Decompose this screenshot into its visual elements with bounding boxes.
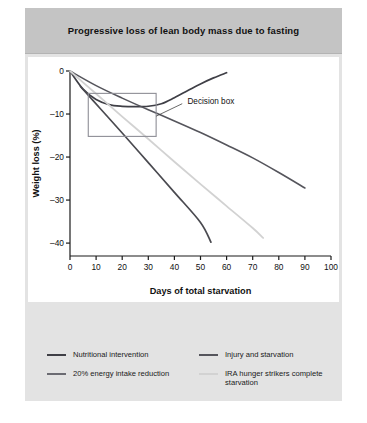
x-tick-label: 100	[324, 262, 338, 272]
y-tick-label: 0	[59, 66, 64, 76]
x-axis-label: Days of total starvation	[150, 286, 252, 296]
legend-label: IRA hunger strikers complete starvation	[225, 369, 339, 388]
y-tick-label: –20	[50, 152, 64, 162]
legend-label: Nutritional intervention	[73, 350, 187, 360]
x-tick-label: 80	[274, 262, 284, 272]
legend-column-right: Injury and starvation IRA hunger striker…	[199, 350, 339, 397]
legend-swatch-icon	[47, 354, 66, 356]
legend-swatch-icon	[199, 373, 218, 375]
figure-panel: Progressive loss of lean body mass due t…	[25, 8, 342, 401]
x-tick-label: 0	[68, 262, 73, 272]
chart-legend: Nutritional intervention 20% energy inta…	[47, 350, 332, 398]
y-tick-label: –40	[50, 238, 64, 248]
x-tick-label: 50	[196, 262, 206, 272]
x-tick-label: 30	[144, 262, 154, 272]
y-tick-label: –30	[50, 195, 64, 205]
x-tick-label: 70	[248, 262, 258, 272]
chart-body-panel: 0–10–20–30–400102030405060708090100Days …	[25, 54, 342, 401]
page-title: Progressive loss of lean body mass due t…	[68, 25, 299, 36]
legend-item-ira-hunger-strikers: IRA hunger strikers complete starvation	[199, 369, 339, 388]
legend-item-energy-intake-reduction: 20% energy intake reduction	[47, 369, 187, 379]
x-tick-label: 10	[91, 262, 101, 272]
y-tick-label: –10	[50, 109, 64, 119]
x-tick-label: 20	[118, 262, 128, 272]
legend-label: Injury and starvation	[225, 350, 339, 360]
legend-swatch-icon	[199, 354, 218, 356]
x-tick-label: 90	[300, 262, 310, 272]
plot-area: 0–10–20–30–400102030405060708090100Days …	[28, 57, 339, 302]
legend-label: 20% energy intake reduction	[73, 369, 187, 379]
legend-item-injury-and-starvation: Injury and starvation	[199, 350, 339, 360]
line-chart: 0–10–20–30–400102030405060708090100Days …	[28, 57, 339, 302]
x-tick-label: 40	[170, 262, 180, 272]
legend-swatch-icon	[47, 373, 66, 375]
chart-title-bar: Progressive loss of lean body mass due t…	[25, 8, 342, 54]
decision-box-label: Decision box	[187, 97, 234, 106]
y-axis-label: Weight loss (%)	[31, 129, 41, 197]
legend-column-left: Nutritional intervention 20% energy inta…	[47, 350, 187, 387]
x-tick-label: 60	[222, 262, 232, 272]
legend-item-nutritional-intervention: Nutritional intervention	[47, 350, 187, 360]
